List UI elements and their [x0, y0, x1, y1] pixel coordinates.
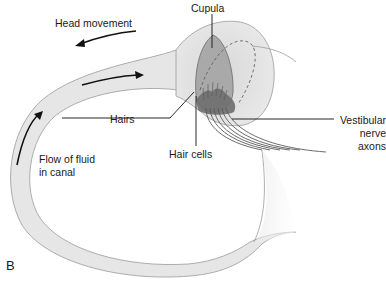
canal-right-fade: [254, 150, 296, 244]
panel-letter: B: [6, 258, 15, 273]
vestibular-label-line3: axons: [358, 140, 386, 152]
cupula-label: Cupula: [191, 2, 224, 14]
flow-label-line2: in canal: [39, 166, 75, 178]
canal-illustration: [0, 0, 386, 283]
vestibular-label-line2: nerve: [360, 127, 386, 139]
semicircular-canal-diagram: Head movement Cupula Hairs Hair cells Ve…: [0, 0, 386, 283]
nerve-axons: [206, 108, 326, 152]
head-movement-arrow-icon: [80, 31, 136, 44]
vestibular-label-line1: Vestibular: [340, 114, 386, 126]
hair-cells-label: Hair cells: [169, 148, 212, 160]
flow-label-line1: Flow of fluid: [39, 153, 95, 165]
head-movement-label: Head movement: [55, 17, 132, 29]
hairs-label: Hairs: [110, 113, 135, 125]
